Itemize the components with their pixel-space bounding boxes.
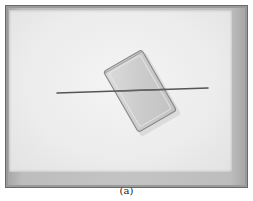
photo-scene xyxy=(0,0,253,201)
figure: (a) xyxy=(0,0,253,201)
figure-caption: (a) xyxy=(0,185,253,196)
